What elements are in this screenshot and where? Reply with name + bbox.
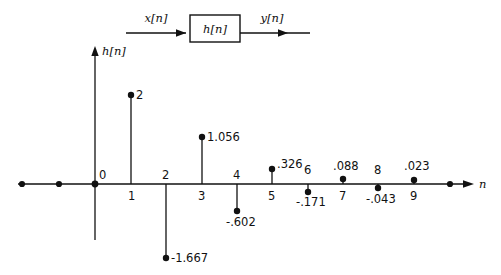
stem-n9: .023 bbox=[404, 159, 430, 184]
tick-label-7: 7 bbox=[339, 189, 346, 203]
tick-label-3: 3 bbox=[198, 189, 205, 203]
stem-dot bbox=[411, 177, 417, 183]
y-axis-arrowhead-icon bbox=[91, 46, 98, 56]
stem-n6: -.171 bbox=[296, 184, 326, 209]
stem-dot bbox=[340, 176, 346, 182]
value-label-n3: 1.056 bbox=[207, 130, 240, 144]
tick-label-5: 5 bbox=[268, 189, 275, 203]
sample-dot bbox=[56, 181, 62, 187]
sample-dot bbox=[447, 181, 453, 187]
tick-label-6: 6 bbox=[304, 163, 311, 177]
input-signal-label: x[n] bbox=[145, 11, 168, 25]
tick-label-4: 4 bbox=[233, 168, 240, 182]
stem-dot bbox=[199, 134, 205, 140]
impulse-response-figure: x[n] h[n] y[n] h[n] n bbox=[0, 0, 501, 275]
tick-label-1: 1 bbox=[128, 189, 135, 203]
x-axis-arrowhead-icon bbox=[463, 180, 474, 188]
tick-label-2: 2 bbox=[162, 168, 169, 182]
value-label-n5: .326 bbox=[277, 157, 303, 171]
sample-dot bbox=[19, 181, 25, 187]
sample-dot-origin bbox=[92, 181, 99, 188]
value-label-n7: .088 bbox=[333, 159, 359, 173]
tick-label-8: 8 bbox=[374, 163, 381, 177]
value-label-n4: -.602 bbox=[226, 215, 256, 229]
stem-dot bbox=[269, 166, 275, 172]
tick-label-9: 9 bbox=[410, 189, 417, 203]
value-label-n6: -.171 bbox=[296, 195, 326, 209]
value-label-n8: -.043 bbox=[366, 192, 396, 206]
stem-dot bbox=[375, 185, 381, 191]
value-label-n2: -1.667 bbox=[171, 251, 208, 265]
stem-n5: .326 bbox=[269, 157, 303, 184]
x-axis-label: n bbox=[479, 177, 486, 191]
y-axis-label: h[n] bbox=[102, 44, 126, 58]
system-block-label: h[n] bbox=[203, 22, 227, 36]
input-arrowhead-icon bbox=[176, 29, 186, 37]
stem-dot bbox=[163, 255, 169, 261]
stem-n7: .088 bbox=[333, 159, 359, 184]
value-label-n9: .023 bbox=[404, 159, 430, 173]
axes: h[n] n bbox=[18, 44, 486, 240]
stem-n4: -.602 bbox=[226, 184, 256, 229]
output-signal-label: y[n] bbox=[260, 11, 284, 25]
stem-dot bbox=[234, 208, 240, 214]
stem-dot bbox=[128, 92, 134, 98]
tick-label-0: 0 bbox=[99, 168, 106, 182]
output-arrowhead-icon bbox=[278, 29, 288, 37]
stem-n1: 2 bbox=[128, 88, 144, 184]
stem-n8: -.043 bbox=[366, 184, 396, 206]
value-label-n1: 2 bbox=[136, 88, 143, 102]
figure-root: x[n] h[n] y[n] h[n] n bbox=[0, 0, 501, 275]
block-diagram: x[n] h[n] y[n] bbox=[126, 11, 310, 42]
